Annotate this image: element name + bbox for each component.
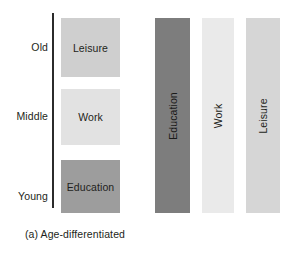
bar-work: Work [202,18,234,213]
age-axis-line [52,13,54,208]
panel-age-integrated: Education Work Leisure (b) Age-integrate… [145,0,288,258]
block-label-education: Education [67,181,115,193]
bar-label-work: Work [212,103,224,128]
block-leisure-old: Leisure [61,18,120,77]
bar-education: Education [155,18,190,213]
age-label-young: Young [0,190,48,202]
figure-age-course-diagram: Old Middle Young Leisure Work Education … [0,0,288,258]
block-label-leisure: Leisure [73,42,108,54]
bar-leisure: Leisure [246,18,280,213]
panel-a-caption: (a) Age-differentiated [6,228,144,240]
age-label-middle: Middle [0,110,48,122]
age-label-old: Old [0,41,48,53]
bar-label-leisure: Leisure [257,98,269,133]
block-work-middle: Work [61,89,120,145]
bar-label-education: Education [167,92,179,140]
block-education-young: Education [61,160,120,213]
block-label-work: Work [78,111,103,123]
panel-age-differentiated: Old Middle Young Leisure Work Education … [0,0,145,258]
